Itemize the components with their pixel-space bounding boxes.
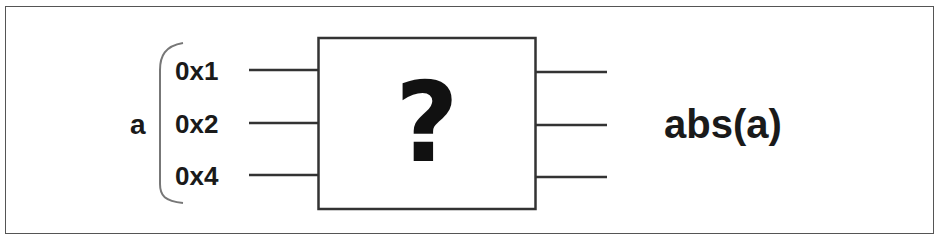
unknown-function-label: ? <box>318 38 536 209</box>
output-label: abs(a) <box>664 104 782 144</box>
input-bit-label: 0x2 <box>175 111 218 137</box>
input-variable-label: a <box>130 111 146 139</box>
input-bit-label: 0x4 <box>175 163 218 189</box>
input-bit-label: 0x1 <box>175 58 218 84</box>
